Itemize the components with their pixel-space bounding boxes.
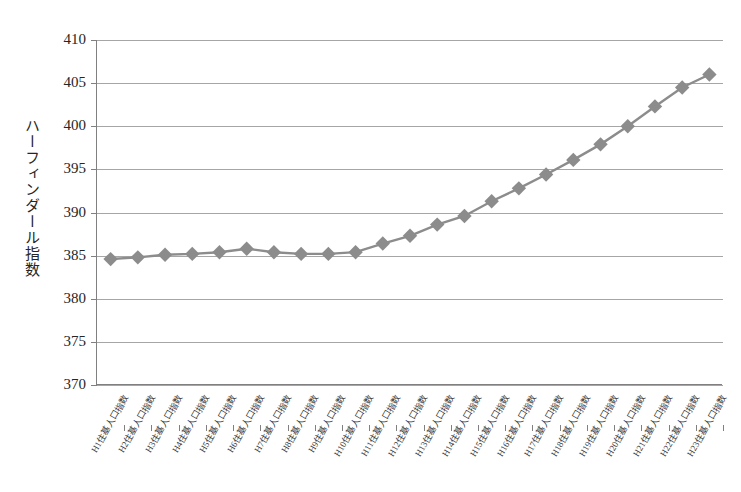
- y-axis-tick-label: 370: [40, 376, 86, 393]
- chart-title: [0, 0, 741, 4]
- series-line-herfindahl: [97, 40, 723, 385]
- data-point-marker: [702, 67, 716, 81]
- y-axis-tick-label: 395: [40, 160, 86, 177]
- data-point-marker: [348, 245, 362, 259]
- y-axis-tick-label: 405: [40, 74, 86, 91]
- data-point-marker: [158, 248, 172, 262]
- data-point-marker: [593, 137, 607, 151]
- data-point-marker: [321, 247, 335, 261]
- data-point-marker: [457, 209, 471, 223]
- data-point-marker: [294, 247, 308, 261]
- data-point-marker: [539, 167, 553, 181]
- y-axis-tick-label: 380: [40, 290, 86, 307]
- data-point-marker: [484, 194, 498, 208]
- data-point-marker: [103, 252, 117, 266]
- y-axis-tick-label: 375: [40, 333, 86, 350]
- data-point-marker: [512, 181, 526, 195]
- y-axis-title: ハーフィンダール指数: [12, 118, 40, 278]
- y-tick-mark-370: [91, 385, 97, 386]
- chart-container: ハーフィンダール指数 370375380385390395400405410 H…: [0, 0, 741, 492]
- y-axis-tick-label: 400: [40, 117, 86, 134]
- data-point-marker: [131, 250, 145, 264]
- data-point-marker: [212, 245, 226, 259]
- data-point-marker: [185, 247, 199, 261]
- x-tick-mark: [723, 425, 724, 431]
- data-point-marker: [566, 153, 580, 167]
- data-point-marker: [675, 80, 689, 94]
- data-point-marker: [376, 236, 390, 250]
- data-point-marker: [267, 245, 281, 259]
- data-point-marker: [403, 229, 417, 243]
- y-axis-tick-label: 385: [40, 247, 86, 264]
- y-axis-tick-label: 410: [40, 31, 86, 48]
- data-point-marker: [430, 217, 444, 231]
- data-point-marker: [239, 242, 253, 256]
- y-axis-tick-label: 390: [40, 204, 86, 221]
- plot-area: [96, 40, 722, 385]
- gridline-370: [97, 385, 723, 386]
